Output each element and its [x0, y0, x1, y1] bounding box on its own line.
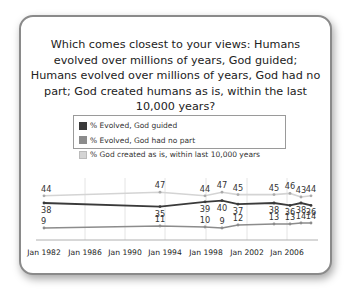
x-tick-label: Jan 2006: [269, 248, 304, 257]
data-point: [159, 225, 162, 228]
data-point: [300, 202, 303, 205]
value-label: 9: [219, 216, 224, 226]
data-point: [204, 194, 207, 197]
value-label: 47: [155, 180, 165, 190]
data-point: [289, 192, 292, 195]
x-tick-label: Jan 1982: [26, 248, 61, 257]
series-line: [44, 223, 311, 228]
x-tick-label: Jan 1986: [67, 248, 102, 257]
value-label: 44: [200, 184, 210, 194]
data-point: [310, 204, 313, 207]
value-label: 38: [296, 205, 306, 215]
x-tick-label: Jan 1994: [147, 248, 182, 257]
value-label: 39: [200, 204, 210, 214]
x-tick-label: Jan 1990: [107, 248, 142, 257]
value-label: 38: [269, 205, 279, 215]
data-point: [204, 226, 207, 229]
data-point: [237, 193, 240, 196]
value-label: 35: [155, 209, 165, 219]
series-line: [44, 192, 311, 197]
data-point: [273, 202, 276, 205]
value-label: 10: [200, 215, 210, 225]
value-label: 47: [217, 180, 227, 190]
data-point: [43, 227, 46, 230]
value-label: 44: [306, 184, 316, 194]
data-point: [204, 200, 207, 203]
data-point: [273, 223, 276, 226]
data-point: [300, 222, 303, 225]
value-label: 46: [285, 181, 295, 191]
value-label: 37: [233, 206, 243, 216]
data-point: [43, 202, 46, 205]
value-label: 38: [41, 205, 51, 215]
data-point: [289, 223, 292, 226]
data-point: [43, 194, 46, 197]
data-point: [221, 191, 224, 194]
data-point: [159, 191, 162, 194]
data-point: [310, 222, 313, 225]
gridlines: [85, 178, 287, 240]
data-point: [159, 205, 162, 208]
value-label: 43: [296, 185, 306, 195]
value-label: 40: [217, 203, 227, 213]
data-point: [310, 194, 313, 197]
value-label: 9: [41, 216, 46, 226]
data-point: [237, 224, 240, 227]
x-tick-label: Jan 1998: [188, 248, 223, 257]
value-label: 36: [306, 207, 316, 217]
line-chart: 4447444745454643449111091213131414383539…: [0, 0, 351, 289]
value-label: 36: [285, 207, 295, 217]
value-label: 44: [41, 184, 51, 194]
value-label: 45: [269, 183, 279, 193]
data-point: [221, 199, 224, 202]
data-point: [221, 227, 224, 230]
x-tick-labels: Jan 1982Jan 1986Jan 1990Jan 1994Jan 1998…: [26, 248, 304, 257]
data-point: [237, 203, 240, 206]
x-tick-label: Jan 2002: [229, 248, 264, 257]
data-point: [289, 204, 292, 207]
data-point: [273, 193, 276, 196]
data-point: [300, 196, 303, 199]
value-label: 45: [233, 183, 243, 193]
